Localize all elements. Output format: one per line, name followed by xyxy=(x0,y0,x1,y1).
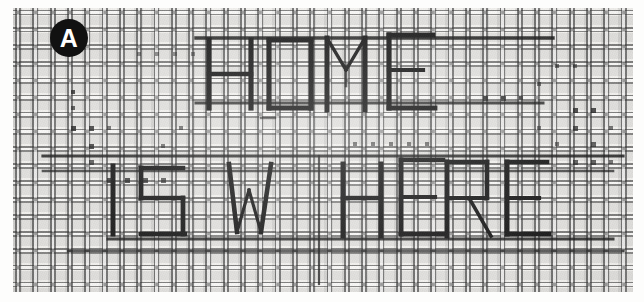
panel-label-a: A xyxy=(50,19,88,57)
figure-panel: A xyxy=(0,0,644,302)
photo-vignette xyxy=(13,8,633,292)
panel-label-text: A xyxy=(60,26,79,51)
wire-mesh-photo xyxy=(13,8,633,292)
